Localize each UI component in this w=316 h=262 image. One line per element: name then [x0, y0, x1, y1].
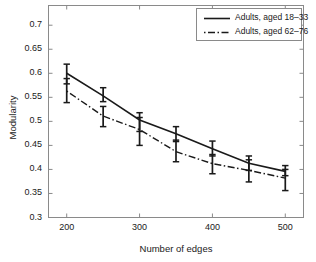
- x-tick-label: 300: [120, 222, 160, 232]
- legend-key-solid-line: [202, 11, 232, 26]
- y-tick-label: 0.3: [8, 212, 42, 222]
- x-tick-label: 200: [47, 222, 87, 232]
- y-tick-label: 0.65: [8, 43, 42, 53]
- y-tick-label: 0.4: [8, 163, 42, 173]
- x-axis-label: Number of edges: [48, 243, 304, 254]
- x-tick-label: 500: [265, 222, 305, 232]
- x-tick-label: 400: [192, 222, 232, 232]
- y-axis-label: Modularity: [7, 83, 18, 153]
- figure: 0.30.350.40.450.50.550.60.650.7 20030040…: [0, 0, 316, 262]
- legend-label-young: Adults, aged 18–33: [235, 12, 308, 22]
- legend-key-dashdot-line: [202, 25, 232, 40]
- legend-label-older: Adults, aged 62–76: [235, 26, 308, 36]
- y-tick-label: 0.35: [8, 187, 42, 197]
- y-tick-label: 0.7: [8, 19, 42, 29]
- legend[interactable]: Adults, aged 18–33 Adults, aged 62–76: [196, 8, 302, 41]
- legend-item-0[interactable]: Adults, aged 18–33: [197, 11, 303, 26]
- y-tick-label: 0.6: [8, 67, 42, 77]
- legend-item-1[interactable]: Adults, aged 62–76: [197, 25, 303, 40]
